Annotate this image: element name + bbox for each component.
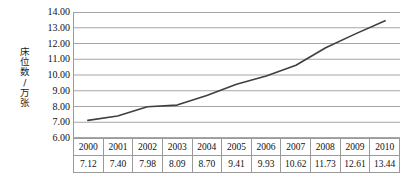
year-cell: 2005 [222,139,252,156]
year-cell: 2009 [340,139,370,156]
y-axis-tick-label: 9.00 [36,86,70,96]
value-cell: 12.61 [340,156,370,173]
table-row: 7.127.407.988.098.709.419.9310.6211.7312… [74,156,400,173]
data-series-line [88,21,385,121]
y-axis-tick-label: 12.00 [36,39,70,49]
value-cell: 7.98 [133,156,163,173]
data-table-container: 2000200120022003200420052006200720082009… [73,138,400,173]
value-cell: 8.70 [192,156,222,173]
data-table: 2000200120022003200420052006200720082009… [73,138,400,173]
year-cell: 2002 [133,139,163,156]
value-cell: 9.41 [222,156,252,173]
year-cell: 2006 [251,139,281,156]
year-cell: 2008 [311,139,341,156]
plot-area [73,12,400,138]
year-cell: 2003 [162,139,192,156]
y-axis-tick-label: 11.00 [36,54,70,64]
table-row: 2000200120022003200420052006200720082009… [74,139,400,156]
value-cell: 13.44 [370,156,400,173]
year-cell: 2007 [281,139,311,156]
y-axis-tick-label: 10.00 [36,70,70,80]
y-axis-title: 床位数/万张 [16,30,32,125]
year-cell: 2004 [192,139,222,156]
y-axis-tick-label: 6.00 [36,133,70,143]
y-axis-tick-label: 8.00 [36,102,70,112]
value-cell: 10.62 [281,156,311,173]
y-axis-tick-label: 13.00 [36,23,70,33]
value-cell: 8.09 [162,156,192,173]
year-cell: 2010 [370,139,400,156]
value-cell: 11.73 [311,156,341,173]
value-cell: 7.40 [103,156,133,173]
year-cell: 2000 [74,139,104,156]
line-chart-svg [73,12,400,138]
y-axis-tick-labels: 6.007.008.009.0010.0011.0012.0013.0014.0… [36,8,70,138]
chart-figure: 床位数/万张 6.007.008.009.0010.0011.0012.0013… [0,0,413,182]
year-cell: 2001 [103,139,133,156]
value-cell: 9.93 [251,156,281,173]
y-axis-tick-label: 14.00 [36,7,70,17]
value-cell: 7.12 [74,156,104,173]
gridlines [73,13,400,138]
y-axis-tick-label: 7.00 [36,117,70,127]
